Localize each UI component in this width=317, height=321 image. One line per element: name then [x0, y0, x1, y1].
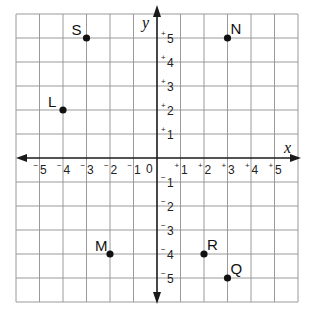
- y-tick-label: +1: [161, 125, 174, 142]
- tick-sign: −: [34, 161, 39, 170]
- origin-label: 0: [146, 162, 153, 176]
- tick-digit: 2: [111, 163, 118, 177]
- y-tick-label: +4: [161, 53, 174, 70]
- point-m: M: [95, 237, 114, 258]
- coordinate-plane: x y 0 −5−4−3−2−1+1+2+3+4+5 +5+4+3+2+1−1−…: [0, 0, 317, 321]
- point-label: M: [95, 237, 108, 254]
- tick-digit: 5: [40, 163, 47, 177]
- tick-digit: 5: [167, 272, 174, 286]
- tick-digit: 4: [167, 248, 174, 262]
- point-s: S: [72, 21, 91, 42]
- tick-sign: +: [269, 161, 274, 170]
- tick-digit: 1: [167, 176, 174, 190]
- tick-sign: +: [198, 161, 203, 170]
- tick-digit: 1: [181, 163, 188, 177]
- tick-sign: −: [128, 161, 133, 170]
- tick-sign: −: [161, 197, 166, 206]
- tick-digit: 4: [64, 163, 71, 177]
- tick-sign: +: [161, 101, 166, 110]
- tick-digit: 2: [167, 200, 174, 214]
- tick-digit: 1: [167, 128, 174, 142]
- tick-digit: 5: [167, 32, 174, 46]
- tick-digit: 4: [252, 163, 259, 177]
- tick-sign: −: [161, 221, 166, 230]
- plotted-points: SNLMRQ: [48, 20, 242, 282]
- point-l: L: [48, 93, 67, 114]
- x-tick-label: −5: [34, 161, 48, 177]
- tick-digit: 5: [275, 163, 282, 177]
- tick-sign: −: [81, 161, 86, 170]
- tick-digit: 2: [205, 163, 212, 177]
- x-axis-left-arrow-icon: [16, 154, 27, 162]
- x-tick-label: +1: [175, 161, 189, 177]
- x-axis-right-arrow-icon: [290, 154, 301, 162]
- axes: x y 0: [16, 5, 301, 304]
- y-tick-label: −5: [161, 269, 174, 286]
- y-tick-label: +2: [161, 101, 174, 118]
- y-tick-label: −4: [161, 245, 174, 262]
- y-tick-label: −2: [161, 197, 174, 214]
- x-tick-label: +3: [222, 161, 236, 177]
- point-label: N: [231, 20, 242, 37]
- y-axis-up-arrow-icon: [153, 5, 161, 17]
- tick-sign: +: [161, 29, 166, 38]
- tick-digit: 3: [167, 224, 174, 238]
- tick-digit: 4: [167, 56, 174, 70]
- tick-sign: −: [161, 173, 166, 182]
- y-axis-label: y: [140, 14, 150, 32]
- x-tick-label: +5: [269, 161, 283, 177]
- y-tick-label: +3: [161, 77, 174, 94]
- x-tick-label: −3: [81, 161, 95, 177]
- x-tick-label: −1: [128, 161, 142, 177]
- point-label: R: [207, 236, 218, 253]
- tick-digit: 3: [228, 163, 235, 177]
- x-tick-label: +4: [245, 161, 259, 177]
- point-dot-icon: [83, 34, 90, 41]
- point-dot-icon: [59, 106, 66, 113]
- tick-sign: −: [104, 161, 109, 170]
- point-label: S: [72, 21, 82, 38]
- tick-digit: 3: [87, 163, 94, 177]
- x-tick-label: −2: [104, 161, 118, 177]
- y-tick-label: −3: [161, 221, 174, 238]
- tick-digit: 3: [167, 80, 174, 94]
- tick-sign: −: [161, 269, 166, 278]
- tick-sign: +: [161, 125, 166, 134]
- tick-digit: 1: [134, 163, 141, 177]
- x-tick-label: +2: [198, 161, 212, 177]
- point-label: Q: [231, 260, 243, 277]
- tick-sign: +: [245, 161, 250, 170]
- tick-digit: 2: [167, 104, 174, 118]
- tick-sign: −: [161, 245, 166, 254]
- point-label: L: [48, 93, 56, 110]
- tick-sign: +: [161, 53, 166, 62]
- x-axis-label: x: [283, 139, 291, 156]
- tick-sign: +: [175, 161, 180, 170]
- y-tick-label: −1: [161, 173, 174, 190]
- tick-sign: +: [222, 161, 227, 170]
- x-tick-label: −4: [57, 161, 71, 177]
- tick-sign: +: [161, 77, 166, 86]
- y-tick-label: +5: [161, 29, 174, 46]
- tick-sign: −: [57, 161, 62, 170]
